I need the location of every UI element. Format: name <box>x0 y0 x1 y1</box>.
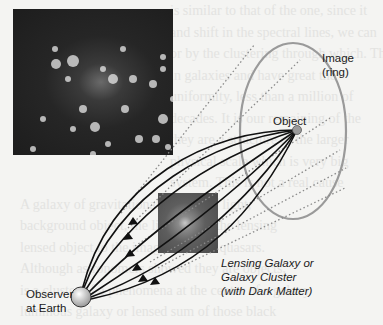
lens-label-line1: Lensing Galaxy or <box>221 256 314 270</box>
observer-label: Observer at Earth <box>26 287 73 315</box>
lensing-galaxy-label: Lensing Galaxy or Galaxy Cluster (with D… <box>221 256 314 298</box>
image-ring-label-line1: Image <box>322 51 354 65</box>
lens-label-line2: Galaxy Cluster <box>221 270 314 284</box>
image-ring-label-line2: (ring) <box>322 65 354 79</box>
lensing-diagram <box>0 0 383 325</box>
object-label: Object <box>273 114 306 128</box>
lens-label-line3: (with Dark Matter) <box>221 284 314 298</box>
observer-label-line2: at Earth <box>26 301 73 315</box>
apparent-image-lines <box>121 44 346 272</box>
observer-circle <box>71 287 91 307</box>
observer-label-line1: Observer <box>26 287 73 301</box>
image-ring-label: Image (ring) <box>322 51 354 79</box>
